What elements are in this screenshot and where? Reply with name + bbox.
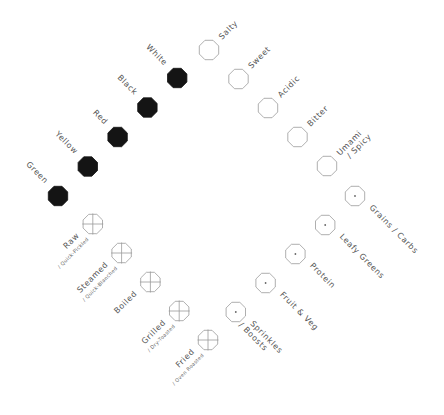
food-balance-diagram: SaltySweetAcidicBitterUmami/ SpicyGrains… [0,0,444,415]
filled-octagon-icon [78,157,97,176]
node-label-group: Boiled [112,289,138,315]
node-yellow: Yellow [53,129,98,176]
node-bitter: Bitter [288,104,330,147]
node-label: Boiled [112,289,138,315]
node-label-group: Umami/ Spicy [335,126,373,164]
node-label: Protein [308,261,337,290]
node-label-group: Fried/ Oven Roasted [163,344,205,386]
group-colors: GreenYellowRedBlackWhite [24,42,187,205]
node-label: Red [91,108,109,126]
node-label-group: Acidic [276,74,302,100]
node-label: Sweet [247,45,273,71]
center-dot [235,311,237,313]
center-dot [265,282,267,284]
node-black: Black [116,73,158,117]
node-label: Acidic [276,74,302,100]
node-sprinkles: Sprinkles/ Boosts [226,302,284,361]
node-label: Yellow [53,129,80,156]
center-dot [324,224,326,226]
node-protein: Protein [286,244,337,290]
node-label: Leafy Greens [338,232,387,281]
node-boiled: Boiled [112,272,161,316]
filled-octagon-icon [48,186,67,205]
center-dot [354,195,356,197]
node-label-group: Black [116,73,140,97]
node-leafy-greens: Leafy Greens [316,215,387,280]
node-fruit-veg: Fruit & Veg [256,273,320,332]
group-tastes: SaltySweetAcidicBitterUmami/ Spicy [199,19,373,176]
node-label-group: Leafy Greens [338,232,387,281]
hollow-octagon-icon [229,69,248,88]
node-label-group: White [144,42,169,67]
filled-octagon-icon [138,98,157,117]
node-label-group: Protein [308,261,337,290]
node-label: Green [24,160,50,186]
node-salty: Salty [199,19,239,60]
node-umami: Umami/ Spicy [317,126,373,176]
node-red: Red [91,108,127,147]
node-label-group: Green [24,160,50,186]
node-label-group: Red [91,108,109,126]
node-label-group: Yellow [53,129,80,156]
node-green: Green [24,160,67,206]
node-label-group: Salty [217,19,240,42]
node-raw: Raw/ Quick-Pickled [48,214,103,270]
hollow-octagon-icon [199,40,218,59]
node-label-group: Grains / Carbs [368,203,420,255]
filled-octagon-icon [108,127,127,146]
node-steamed: Steamed/ Quick-Blanched [73,243,132,303]
node-sweet: Sweet [229,45,273,89]
node-white: White [144,42,187,87]
node-acidic: Acidic [258,74,301,118]
node-label-group: Bitter [306,104,331,129]
node-label: Fruit & Veg [278,290,320,332]
node-label: White [144,42,169,67]
center-dot [295,253,297,255]
node-label: Black [116,73,140,97]
node-label: Bitter [306,104,331,129]
node-grilled: Grilled/ Dry-Toasted [138,301,189,354]
node-label-group: Sweet [247,45,273,71]
node-label-group: Raw/ Quick-Pickled [48,228,89,269]
node-label-group: Steamed/ Quick-Blanched [73,257,118,302]
group-cooking-methods: Fried/ Oven RoastedGrilled/ Dry-ToastedB… [48,214,218,387]
node-label-group: Sprinkles/ Boosts [237,314,284,361]
node-fried: Fried/ Oven Roasted [163,330,219,387]
node-label: Salty [217,19,240,42]
hollow-octagon-icon [258,98,277,117]
filled-octagon-icon [168,68,187,87]
hollow-octagon-icon [288,127,307,146]
node-label: Grains / Carbs [368,203,420,255]
node-label-group: Fruit & Veg [278,290,320,332]
group-food-groups: Grains / CarbsLeafy GreensProteinFruit &… [226,186,420,361]
node-label-group: Grilled/ Dry-Toasted [138,315,177,354]
hollow-octagon-icon [317,156,336,175]
